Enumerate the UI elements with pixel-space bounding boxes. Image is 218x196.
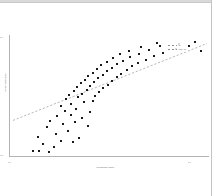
scatter-point	[64, 110, 66, 112]
page-root: 1.0 0.0 0.0 1.0 Predicted value Observed…	[0, 0, 218, 196]
scatter-point	[37, 136, 39, 138]
chart-legend: fit 95% CI	[166, 43, 188, 52]
plot-frame	[9, 35, 209, 157]
scatter-point	[60, 140, 62, 142]
scatter-point	[131, 65, 133, 67]
x-axis-tick-right: 1.0	[188, 161, 191, 164]
scatter-point	[67, 130, 69, 132]
scatter-point	[106, 70, 108, 72]
scatter-point	[84, 79, 86, 81]
scatter-point	[48, 151, 50, 153]
scatter-point	[68, 94, 70, 96]
scatter-point	[137, 62, 139, 64]
scatter-point	[116, 63, 118, 65]
scatter-point	[120, 73, 122, 75]
scatter-point	[81, 93, 83, 95]
scatter-point	[87, 125, 89, 127]
scatter-point	[106, 61, 108, 63]
scatter-point	[93, 81, 95, 83]
scatter-point	[72, 141, 74, 143]
scatter-point	[188, 45, 190, 47]
scatter-point	[83, 101, 85, 103]
trendline	[9, 35, 209, 157]
scatter-point	[200, 50, 202, 52]
scatter-point	[102, 74, 104, 76]
chart-figure: 1.0 0.0 0.0 1.0 Predicted value Observed…	[0, 3, 211, 196]
scatter-point	[70, 103, 72, 105]
scatter-point	[65, 98, 67, 100]
scatter-point	[32, 150, 34, 152]
scatter-point	[60, 105, 62, 107]
scatter-point	[159, 45, 161, 47]
legend-entry-label: 95% CI	[179, 48, 186, 51]
scatter-point	[86, 89, 88, 91]
scatter-point	[74, 121, 76, 123]
scatter-point	[148, 49, 150, 51]
scatter-point	[80, 82, 82, 84]
scatter-point	[92, 72, 94, 74]
scatter-point	[128, 50, 130, 52]
scatter-point	[153, 55, 155, 57]
scatter-point	[126, 69, 128, 71]
legend-entry: 95% CI	[168, 48, 186, 51]
scatter-point	[56, 115, 58, 117]
scatter-point	[122, 60, 124, 62]
scatter-point	[75, 108, 77, 110]
scatter-point	[112, 57, 114, 59]
scatter-point	[119, 53, 121, 55]
scatter-point	[138, 53, 140, 55]
scatter-point	[55, 133, 57, 135]
y-axis-label: Observed value	[4, 66, 7, 100]
scatter-point	[92, 100, 94, 102]
scatter-point	[156, 42, 158, 44]
legend-line-swatch-icon	[168, 49, 177, 50]
scatter-point	[77, 96, 79, 98]
scatter-point	[62, 123, 64, 125]
scatter-point	[129, 56, 131, 58]
y-axis-tick-top: 1.0	[0, 36, 3, 39]
scatter-point	[140, 46, 142, 48]
scatter-point	[97, 77, 99, 79]
scatter-point	[116, 76, 118, 78]
scatter-point	[98, 91, 100, 93]
scatter-point	[81, 117, 83, 119]
scatter-point	[145, 59, 147, 61]
scatter-point	[89, 111, 91, 113]
scatter-plot-area	[9, 35, 209, 157]
scatter-point	[162, 52, 164, 54]
scatter-point	[73, 90, 75, 92]
legend-entry-label: fit	[179, 44, 181, 47]
scatter-point	[111, 67, 113, 69]
y-axis-tick-bottom: 0.0	[0, 154, 3, 157]
scatter-point	[102, 87, 104, 89]
x-axis-label: Predicted value	[0, 166, 211, 169]
legend-line-swatch-icon	[168, 45, 177, 46]
scatter-point	[89, 85, 91, 87]
scatter-point	[49, 120, 51, 122]
scatter-point	[38, 150, 40, 152]
x-axis-tick-left: 0.0	[8, 161, 11, 164]
scatter-point	[100, 64, 102, 66]
scatter-point	[76, 86, 78, 88]
scatter-point	[194, 41, 196, 43]
scatter-point	[42, 143, 44, 145]
scatter-point	[46, 126, 48, 128]
scatter-point	[53, 146, 55, 148]
scatter-point	[70, 114, 72, 116]
scatter-point	[96, 68, 98, 70]
scatter-point	[78, 137, 80, 139]
scatter-point	[111, 80, 113, 82]
scatter-point	[94, 95, 96, 97]
scatter-point	[87, 75, 89, 77]
scatter-point	[107, 84, 109, 86]
page-right-edge	[211, 0, 218, 196]
